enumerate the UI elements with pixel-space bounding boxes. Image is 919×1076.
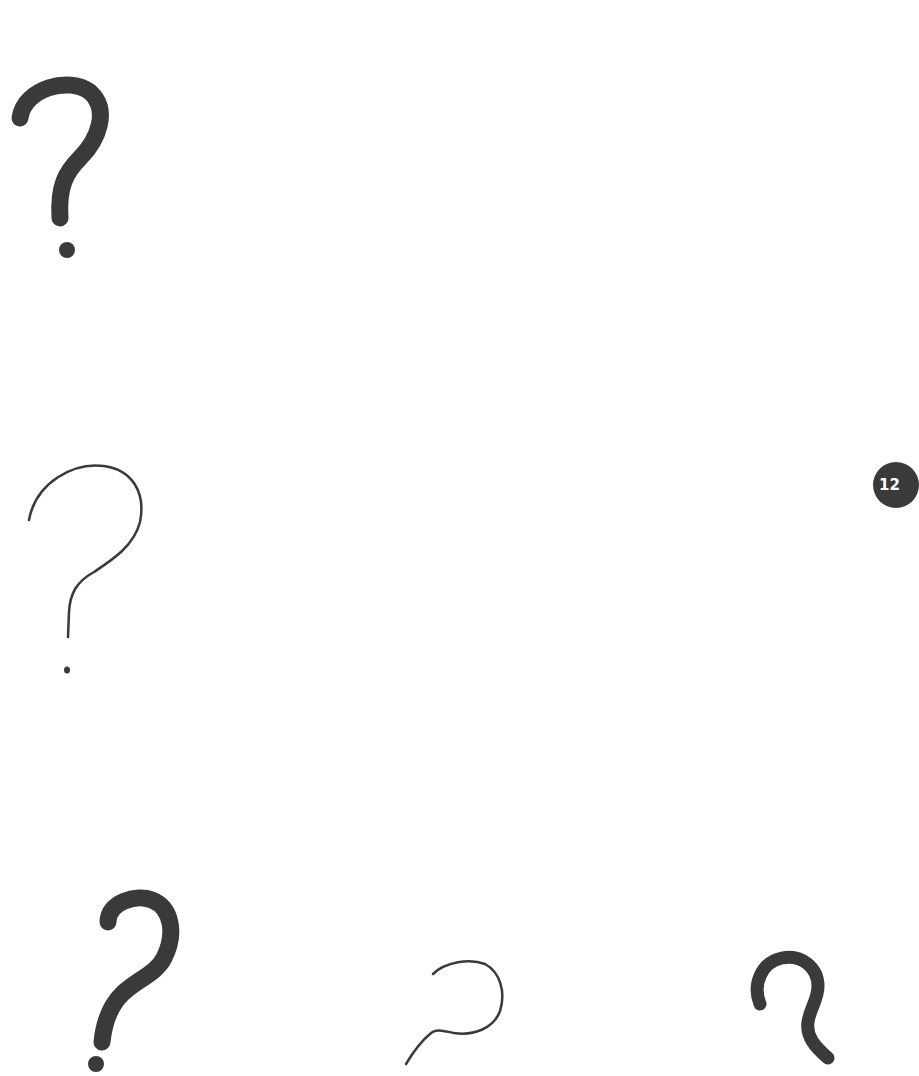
question-mark-icon bbox=[24, 462, 154, 682]
question-mark-icon bbox=[10, 78, 110, 268]
question-mark-icon bbox=[86, 892, 186, 1072]
question-mark-icon bbox=[748, 950, 868, 1076]
question-mark-icon bbox=[400, 956, 520, 1076]
page-number: 12 bbox=[879, 476, 900, 494]
page-number-badge: 12 bbox=[873, 462, 919, 508]
